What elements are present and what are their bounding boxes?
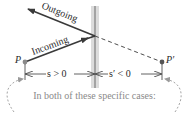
outgoing-label: Outgoing <box>40 0 79 24</box>
virtual-ray-extension <box>95 36 162 62</box>
object-point-label: P <box>14 54 21 65</box>
mirror <box>91 6 99 88</box>
image-point-label: P′ <box>165 54 175 65</box>
caption: In both of these specific cases: <box>0 90 189 101</box>
image-distance-label: s′ < 0 <box>109 68 131 79</box>
object-distance-label: s > 0 <box>47 68 67 79</box>
object-point-P <box>23 60 28 65</box>
image-point-P-prime <box>160 60 165 65</box>
